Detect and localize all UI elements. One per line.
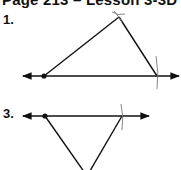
compass-arc-1-base bbox=[156, 56, 158, 89]
figure-3 bbox=[23, 104, 149, 170]
figure-1 bbox=[23, 11, 179, 89]
triangle-3-left-side bbox=[45, 116, 87, 170]
point-marker-1 bbox=[41, 73, 46, 78]
triangle-1-left-side bbox=[44, 17, 119, 76]
point-marker-3 bbox=[42, 113, 47, 118]
triangle-1-right-side bbox=[119, 17, 157, 76]
triangle-3-right-side bbox=[87, 116, 122, 170]
compass-arc-1-apex-a bbox=[112, 12, 125, 15]
geometry-figures bbox=[0, 0, 181, 170]
